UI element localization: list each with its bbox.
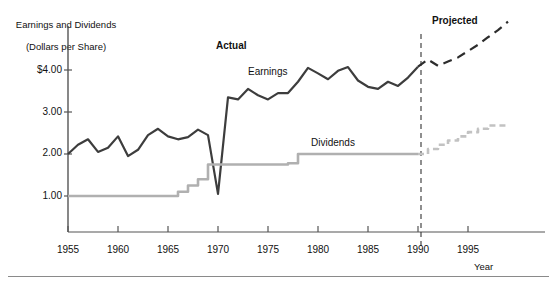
bottom-divider-rule <box>8 276 549 277</box>
x-tick-label-1980: 1980 <box>296 244 340 255</box>
annotation-actual: Actual <box>216 40 247 51</box>
chart-figure: Earnings and Dividends (Dollars per Shar… <box>0 0 557 290</box>
x-tick-label-1985: 1985 <box>346 244 390 255</box>
x-tick-label-1970: 1970 <box>196 244 240 255</box>
y-tick-label-2: 2.00 <box>10 147 62 158</box>
x-tick-label-1995: 1995 <box>446 244 490 255</box>
y-tick-label-3: 3.00 <box>10 106 62 117</box>
series-line-dividends-projected <box>418 125 508 154</box>
series-line-dividends <box>68 154 418 196</box>
x-tick-label-1975: 1975 <box>246 244 290 255</box>
series-line-earnings-projected <box>418 22 508 67</box>
series-label-dividends: Dividends <box>311 137 355 148</box>
x-tick-label-1955: 1955 <box>46 244 90 255</box>
series-line-earnings <box>68 67 418 194</box>
x-tick-label-1990: 1990 <box>396 244 440 255</box>
x-axis-title: Year <box>474 261 493 272</box>
y-tick-label-1: 1.00 <box>10 190 62 201</box>
annotation-projected: Projected <box>432 15 478 26</box>
x-tick-label-1960: 1960 <box>96 244 140 255</box>
x-tick-label-1965: 1965 <box>146 244 190 255</box>
series-label-earnings: Earnings <box>248 66 287 77</box>
y-tick-label-4: $4.00 <box>10 64 62 75</box>
